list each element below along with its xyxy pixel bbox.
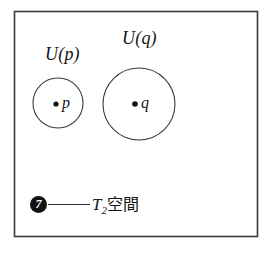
neighborhood-label-uq: U(q): [122, 29, 157, 47]
point-label-q: q: [141, 95, 149, 111]
point-dot-q: [132, 101, 138, 107]
neighborhood-circle-uq: [103, 68, 175, 140]
caption-number-badge: 7: [30, 196, 47, 213]
point-dot-p: [53, 101, 58, 106]
caption-term-kuukan: 空間: [107, 195, 139, 214]
figure-container: U(p) U(q) p q 7 T2空間: [0, 0, 273, 255]
point-label-p: p: [62, 95, 70, 111]
neighborhood-label-up: U(p): [45, 45, 80, 63]
figure-caption: 7 T2空間: [30, 193, 139, 215]
caption-dash-line: [48, 204, 90, 205]
caption-label: T2空間: [92, 191, 139, 216]
